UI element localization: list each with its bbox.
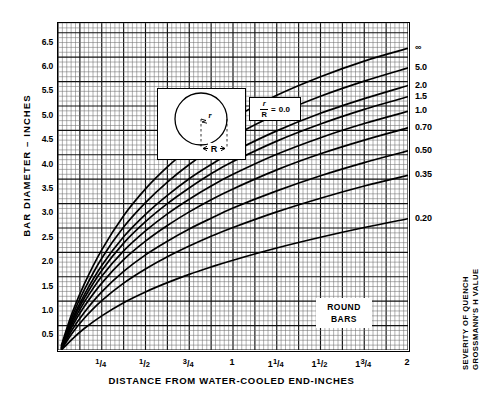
ratio-denominator: R [260,111,268,119]
y-tick-4.0: 4.0 [42,159,53,168]
x-tick-0-75: 3/4 [183,357,194,370]
x-tick-2: 2 [404,357,409,367]
curve-label-5.0: 5.0 [415,62,427,72]
radius-label: R [211,144,218,154]
x-axis-title: DISTANCE FROM WATER-COOLED END-INCHES [0,375,463,386]
x-axis-tick-labels: 1/41/23/4111/411/213/42 [0,357,463,373]
ratio-callout-box: r R = 0.0 [249,97,301,121]
y-tick-0.5: 0.5 [42,330,53,339]
x-tick-0-5: 1/2 [139,357,150,370]
curve-label-1.5: 1.5 [415,91,427,101]
round-bars-line-2: BARS [331,313,357,325]
y-tick-6.0: 6.0 [42,61,53,70]
plot-area: R r r R = 0.0 ROUND BARS [57,22,410,352]
y-tick-2.5: 2.5 [42,232,53,241]
y-tick-4.5: 4.5 [42,135,53,144]
curve-label-0.70: 0.70 [415,122,432,132]
right-axis-title-h-value: GROSSMANN'S H VALUE [471,200,480,370]
inset-svg: R r [158,89,245,159]
round-bars-annotation: ROUND BARS [316,298,372,328]
curve-label-0.50: 0.50 [415,145,432,155]
curve-label-: ∞ [415,42,421,52]
y-tick-3.0: 3.0 [42,208,53,217]
x-tick-1-5: 11/2 [312,357,328,370]
x-tick-1-25: 11/4 [268,357,284,370]
ratio-value: 0.0 [279,105,290,114]
y-tick-2.0: 2.0 [42,257,53,266]
y-tick-1.5: 1.5 [42,281,53,290]
ratio-expression: r R = 0.0 [260,100,290,118]
ratio-operator: = [271,105,276,114]
curve-label-1.0: 1.0 [415,105,427,115]
y-tick-6.5: 6.5 [42,37,53,46]
y-tick-5.5: 5.5 [42,86,53,95]
curve-0.20 [62,219,409,350]
right-axis-title-severity: SEVERITY OF QUENCH [461,200,470,370]
round-bars-line-1: ROUND [327,301,361,313]
x-tick-0-25: 1/4 [95,357,106,370]
x-tick-1-75: 13/4 [355,357,371,370]
y-tick-3.5: 3.5 [42,183,53,192]
curve-label-2.0: 2.0 [415,80,427,90]
y-axis-title: BAR DIAMETER – INCHES [21,76,32,256]
y-tick-5.0: 5.0 [42,110,53,119]
ratio-numerator: r [260,100,268,108]
curve-label-0.35: 0.35 [415,169,432,179]
round-bar-inset-diagram: R r [157,88,246,160]
ratio-fraction: r R [260,100,268,118]
curve-label-0.20: 0.20 [415,213,432,223]
y-tick-1.0: 1.0 [42,306,53,315]
x-tick-1: 1 [229,357,234,367]
